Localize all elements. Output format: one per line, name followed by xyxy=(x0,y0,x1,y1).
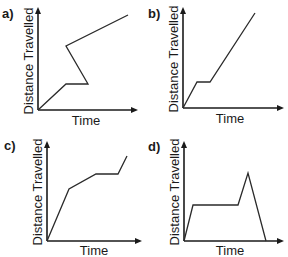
x-axis-label: Time xyxy=(80,243,108,257)
y-axis-label: Distance Travelled xyxy=(21,8,36,115)
panel-a: a) Distance Travelled Time xyxy=(2,6,138,128)
panel-label: a) xyxy=(2,6,14,21)
panel-label: b) xyxy=(148,6,160,21)
graph-line xyxy=(184,173,266,241)
y-axis-label: Distance Travelled xyxy=(166,6,181,113)
panel-b: b) Distance Travelled Time xyxy=(148,6,284,126)
x-axis-label: Time xyxy=(72,113,100,128)
panel-label: d) xyxy=(148,139,160,154)
graph-line xyxy=(183,13,255,108)
panel-c: c) Distance Travelled Time xyxy=(4,138,142,257)
panel-label: c) xyxy=(4,138,16,153)
y-axis-label: Distance Travelled xyxy=(30,139,45,246)
distance-time-graphs: a) Distance Travelled Time b) Distance T… xyxy=(0,0,288,257)
x-axis-arrow-icon xyxy=(135,238,142,244)
x-axis-label: Time xyxy=(216,111,244,126)
panel-d: d) Distance Travelled Time xyxy=(148,139,284,257)
graph-line xyxy=(38,15,128,110)
x-axis-arrow-icon xyxy=(277,105,284,111)
y-axis-label: Distance Travelled xyxy=(167,139,182,246)
x-axis-arrow-icon xyxy=(131,107,138,113)
graph-line xyxy=(47,156,127,241)
x-axis-label: Time xyxy=(216,243,244,257)
x-axis-arrow-icon xyxy=(277,238,284,244)
